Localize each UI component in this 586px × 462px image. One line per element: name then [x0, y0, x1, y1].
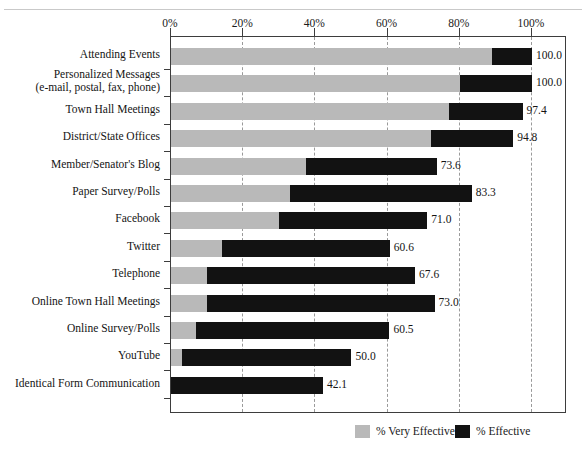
bar-value-label: 97.4: [527, 103, 547, 118]
bar-segment-effective: [492, 48, 532, 65]
category-label: District/State Offices: [63, 130, 160, 143]
bar-value-label: 42.1: [327, 377, 347, 392]
legend-swatch-effective: [455, 425, 470, 438]
bar-segment-very-effective: [171, 158, 306, 175]
bar-segment-effective: [431, 130, 513, 147]
category-label: Personalized Messages(e-mail, postal, fa…: [35, 68, 160, 94]
category-label-text: Member/Senator's Blog: [51, 158, 160, 170]
chart-legend: % Very Effective% Effective: [0, 424, 586, 444]
category-label: Town Hall Meetings: [66, 103, 160, 116]
category-axis-labels: Attending EventsPersonalized Messages(e-…: [0, 36, 166, 413]
x-axis-tick-mark: [242, 28, 243, 36]
x-axis-tick-labels: 0%20%40%60%80%100%: [0, 16, 586, 32]
bar-segment-effective: [306, 158, 436, 175]
category-label-text: Town Hall Meetings: [66, 103, 160, 115]
bar-segment-effective: [196, 322, 389, 339]
category-tick-mark: [164, 261, 171, 262]
category-label: Telephone: [112, 267, 160, 280]
category-label: Facebook: [115, 212, 160, 225]
category-label-text: Facebook: [115, 212, 160, 224]
bar-segment-effective: [222, 240, 390, 257]
bar-segment-very-effective: [171, 295, 207, 312]
bar-segment-effective: [449, 103, 523, 120]
stacked-bar-chart: 0%20%40%60%80%100% Attending EventsPerso…: [0, 0, 586, 462]
category-tick-mark: [164, 316, 171, 317]
bar-value-label: 67.6: [419, 267, 439, 282]
category-label-text: Online Survey/Polls: [67, 322, 160, 334]
category-label-text: YouTube: [118, 349, 160, 361]
bar-segment-very-effective: [171, 185, 290, 202]
category-tick-mark: [164, 69, 171, 70]
category-tick-mark: [164, 398, 171, 399]
category-tick-mark: [164, 233, 171, 234]
bar-segment-effective: [207, 267, 415, 284]
bar-value-label: 83.3: [476, 185, 496, 200]
bar-segment-very-effective: [171, 48, 492, 65]
category-label: Identical Form Communication: [15, 377, 160, 390]
bar-value-label: 73.6: [441, 158, 461, 173]
bar-segment-very-effective: [171, 267, 207, 284]
bar-segment-effective: [460, 75, 532, 92]
bar-value-label: 94.8: [517, 130, 537, 145]
legend-swatch-very-effective: [355, 425, 370, 438]
bar-value-label: 73.0: [439, 295, 459, 310]
bar-segment-very-effective: [171, 103, 449, 120]
category-label: Paper Survey/Polls: [72, 185, 160, 198]
x-axis-tick-mark: [387, 28, 388, 36]
bar-segment-very-effective: [171, 240, 222, 257]
category-label-text: Attending Events: [80, 48, 160, 60]
bar-segment-effective: [279, 212, 427, 229]
category-label-text: District/State Offices: [63, 130, 160, 142]
x-axis-tick-mark: [531, 28, 532, 36]
category-label-subtext: (e-mail, postal, fax, phone): [35, 81, 160, 94]
category-label-text: Twitter: [127, 240, 160, 252]
category-label: Twitter: [127, 240, 160, 253]
category-tick-mark: [164, 124, 171, 125]
legend-item: % Very Effective: [355, 424, 455, 439]
scan-artifact-line: [4, 9, 582, 10]
bar-segment-effective: [207, 295, 434, 312]
category-label: Online Survey/Polls: [67, 322, 160, 335]
gridline: [531, 37, 532, 412]
category-label-text: Identical Form Communication: [15, 377, 160, 389]
category-label: Member/Senator's Blog: [51, 158, 160, 171]
bar-value-label: 60.6: [394, 240, 414, 255]
legend-item: % Effective: [455, 424, 530, 439]
bar-segment-effective: [290, 185, 472, 202]
category-tick-mark: [164, 370, 171, 371]
bar-value-label: 100.0: [536, 48, 562, 63]
legend-label: % Very Effective: [376, 424, 455, 439]
bar-segment-very-effective: [171, 212, 279, 229]
category-tick-mark: [164, 96, 171, 97]
bar-segment-effective: [171, 377, 323, 394]
bar-segment-very-effective: [171, 130, 431, 147]
category-tick-mark: [164, 288, 171, 289]
category-label: Attending Events: [80, 48, 160, 61]
bar-value-label: 100.0: [536, 75, 562, 90]
legend-label: % Effective: [476, 424, 530, 439]
category-label-text: Online Town Hall Meetings: [32, 295, 160, 307]
category-label: YouTube: [118, 349, 160, 362]
x-axis-tick-mark: [314, 28, 315, 36]
gridline: [459, 37, 460, 412]
bar-value-label: 50.0: [356, 349, 376, 364]
category-label-text: Personalized Messages: [54, 68, 160, 80]
x-axis-tick-mark: [170, 28, 171, 36]
bar-segment-effective: [182, 349, 352, 366]
category-label-text: Paper Survey/Polls: [72, 185, 160, 197]
bar-value-label: 71.0: [431, 212, 451, 227]
category-tick-mark: [164, 206, 171, 207]
x-axis-tick-mark: [459, 28, 460, 36]
bar-segment-very-effective: [171, 349, 182, 366]
bar-value-label: 60.5: [393, 322, 413, 337]
category-tick-mark: [164, 151, 171, 152]
bar-segment-very-effective: [171, 75, 460, 92]
category-label: Online Town Hall Meetings: [32, 295, 160, 308]
category-label-text: Telephone: [112, 267, 160, 279]
bar-segment-very-effective: [171, 322, 196, 339]
category-tick-mark: [164, 343, 171, 344]
category-tick-mark: [164, 179, 171, 180]
